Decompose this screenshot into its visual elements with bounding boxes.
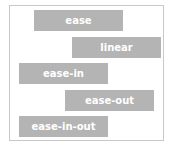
- bar-ease-out: ease-out: [65, 90, 154, 111]
- bar-ease-in: ease-in: [19, 63, 108, 84]
- bar-label: ease-in: [43, 68, 84, 79]
- bar-linear: linear: [72, 37, 161, 58]
- bar-label: linear: [100, 42, 132, 53]
- bar-label: ease: [65, 15, 91, 26]
- bar-ease: ease: [34, 10, 123, 31]
- bar-label: ease-out: [85, 95, 134, 106]
- bar-label: ease-in-out: [32, 121, 96, 132]
- bar-ease-in-out: ease-in-out: [19, 116, 108, 137]
